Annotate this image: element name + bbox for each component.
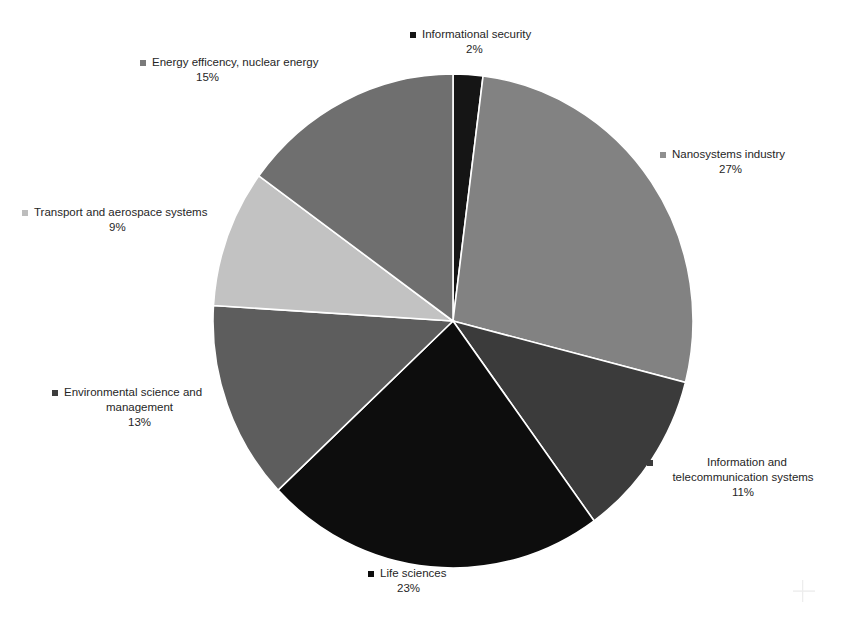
pie-label-value: 2% xyxy=(392,42,592,57)
pie-label-environmental-science: Environmental science and management 13% xyxy=(52,385,227,430)
pie-label-value: 15% xyxy=(140,70,365,85)
legend-marker-life-sciences xyxy=(368,571,374,577)
pie-label-value: 11% xyxy=(647,485,839,500)
legend-marker-environmental-science xyxy=(52,390,58,396)
pie-label-text-line2: telecommunication systems xyxy=(647,470,839,485)
legend-marker-nanosystems-industry xyxy=(660,152,666,158)
pie-label-text: Nanosystems industry xyxy=(672,147,785,162)
pie-label-text: Environmental science and xyxy=(64,385,202,400)
pie-label-value: 9% xyxy=(22,220,237,235)
pie-label-text: Energy efficency, nuclear energy xyxy=(152,55,318,70)
legend-marker-information-telecom xyxy=(647,460,653,466)
legend-marker-transport-aerospace xyxy=(22,210,28,216)
pie-chart-svg xyxy=(212,73,694,569)
scan-artifact xyxy=(793,580,815,602)
pie-slice-group xyxy=(213,74,693,568)
legend-marker-informational-security xyxy=(410,32,416,38)
pie-label-text-line2: management xyxy=(52,400,227,415)
pie-label-value: 27% xyxy=(660,162,850,177)
pie-label-information-telecom: Information and telecommunication system… xyxy=(647,455,839,500)
pie-label-transport-aerospace: Transport and aerospace systems 9% xyxy=(22,205,237,235)
pie-label-value: 23% xyxy=(350,581,510,596)
pie-chart xyxy=(212,73,694,569)
pie-label-energy-efficiency: Energy efficency, nuclear energy 15% xyxy=(140,55,365,85)
pie-chart-figure: Informational security 2% Energy efficen… xyxy=(0,0,851,624)
pie-label-nanosystems-industry: Nanosystems industry 27% xyxy=(660,147,850,177)
pie-label-informational-security: Informational security 2% xyxy=(392,27,592,57)
pie-label-life-sciences: Life sciences 23% xyxy=(350,566,510,596)
legend-marker-energy-efficiency xyxy=(140,60,146,66)
pie-label-text: Information and xyxy=(659,455,787,470)
pie-label-text: Transport and aerospace systems xyxy=(34,205,207,220)
pie-label-value: 13% xyxy=(52,415,227,430)
pie-label-text: Informational security xyxy=(422,27,531,42)
pie-label-text: Life sciences xyxy=(380,566,446,581)
